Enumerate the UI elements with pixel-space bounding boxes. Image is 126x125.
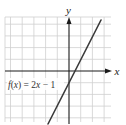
function-label: f(x) = 2x − 1 (8, 80, 55, 91)
y-axis-label: y (65, 4, 71, 16)
y-axis-arrow-icon (67, 17, 72, 24)
x-axis-arrow-icon (105, 69, 112, 74)
x-axis-label: x (114, 65, 120, 77)
function-graph: x y f(x) = 2x − 1 (0, 0, 126, 125)
